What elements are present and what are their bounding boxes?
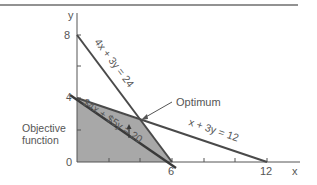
- constraint-label-1: 4x + 3y = 24: [92, 36, 136, 90]
- y-tick-label-8: 8: [64, 29, 70, 41]
- lp-diagram: y 8 4 0 6 12 x Optimum Objective functio…: [0, 0, 317, 185]
- x-tick-label-12: 12: [260, 165, 272, 177]
- y-tick-label-4: 4: [66, 92, 72, 103]
- y-axis-label: y: [68, 9, 74, 21]
- x-axis-label: x: [292, 165, 298, 177]
- constraint-label-2: x + 3y = 12: [187, 116, 240, 144]
- optimum-arrowhead-icon: [141, 114, 148, 120]
- optimum-label: Optimum: [176, 96, 221, 108]
- origin-label: 0: [66, 156, 72, 168]
- x-tick-label-6: 6: [168, 165, 174, 177]
- objective-caption-1: Objective: [22, 122, 66, 134]
- optimum-pointer: [144, 102, 172, 118]
- objective-caption-2: function: [22, 134, 59, 146]
